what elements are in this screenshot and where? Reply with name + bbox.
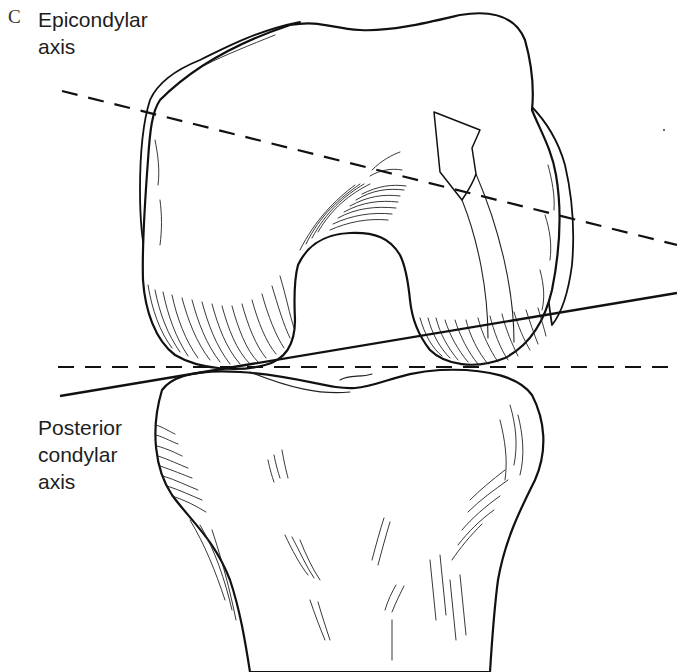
tibia-illustration — [155, 370, 543, 672]
knee-diagram — [0, 0, 677, 672]
femur-illustration — [140, 13, 573, 369]
stray-mark — [663, 129, 665, 131]
